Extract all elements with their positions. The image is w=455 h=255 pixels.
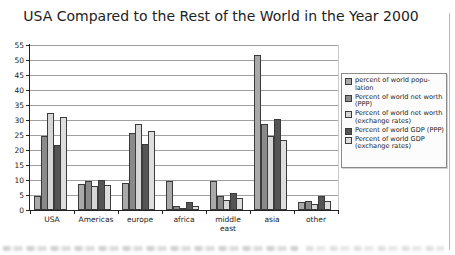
bar xyxy=(60,117,67,210)
y-axis-tick xyxy=(26,135,30,136)
gridline xyxy=(30,195,338,196)
gridline xyxy=(30,90,338,91)
legend-item: Percent of world GDP (PPP) xyxy=(345,127,444,135)
x-axis-label: Americas xyxy=(74,216,118,225)
y-axis-tick xyxy=(26,75,30,76)
legend-label: Percent of world net worth (exchange rat… xyxy=(355,110,444,126)
y-axis-label: 45 xyxy=(2,71,24,80)
legend-swatch-icon xyxy=(345,78,352,85)
y-axis-line xyxy=(29,44,30,211)
y-axis-tick xyxy=(26,180,30,181)
chart-title: USA Compared to the Rest of the World in… xyxy=(0,8,442,24)
y-axis-label: 55 xyxy=(2,41,24,50)
page-edge-line xyxy=(449,13,450,250)
x-axis-line xyxy=(29,210,339,211)
gridline xyxy=(30,180,338,181)
y-axis-label: 0 xyxy=(2,206,24,215)
legend-label: percent of world popu-lation xyxy=(355,77,444,93)
scan-artifact xyxy=(3,246,298,251)
bar xyxy=(236,198,243,210)
y-axis-label: 20 xyxy=(2,146,24,155)
x-axis-tick xyxy=(206,211,207,214)
gridline xyxy=(30,165,338,166)
y-axis-label: 25 xyxy=(2,131,24,140)
legend: percent of world popu-lationPercent of w… xyxy=(341,73,447,168)
legend-label: Percent of world GDP (PPP) xyxy=(355,127,444,135)
y-axis-label: 15 xyxy=(2,161,24,170)
y-axis-label: 5 xyxy=(2,191,24,200)
y-axis-label: 40 xyxy=(2,86,24,95)
gridline xyxy=(30,45,338,46)
y-axis-label: 50 xyxy=(2,56,24,65)
y-axis-tick xyxy=(26,90,30,91)
scan-artifact xyxy=(306,246,444,251)
x-axis-label: middle east xyxy=(206,216,250,233)
x-axis-tick xyxy=(294,211,295,214)
legend-swatch-icon xyxy=(345,137,352,144)
x-axis-tick xyxy=(250,211,251,214)
legend-item: Percent of world net worth (PPP) xyxy=(345,94,444,110)
legend-swatch-icon xyxy=(345,95,352,102)
x-axis-tick xyxy=(338,211,339,214)
x-axis-label: africa xyxy=(162,216,206,225)
x-axis-label: USA xyxy=(30,216,74,225)
x-axis-tick xyxy=(118,211,119,214)
y-axis-label: 30 xyxy=(2,116,24,125)
y-axis-tick xyxy=(26,60,30,61)
y-axis-tick xyxy=(26,150,30,151)
gridline xyxy=(30,60,338,61)
y-axis-tick xyxy=(26,195,30,196)
x-axis-label: other xyxy=(294,216,338,225)
bar xyxy=(324,201,331,210)
plot-area xyxy=(30,45,339,210)
gridline xyxy=(30,120,338,121)
legend-item: Percent of world GDP (exchange rates) xyxy=(345,136,444,152)
gridline xyxy=(30,150,338,151)
bar xyxy=(148,131,155,210)
gridline xyxy=(30,105,338,106)
legend-swatch-icon xyxy=(345,128,352,135)
gridline xyxy=(30,135,338,136)
bar xyxy=(280,140,287,210)
y-axis-tick xyxy=(26,45,30,46)
x-axis-label: europe xyxy=(118,216,162,225)
legend-label: Percent of world net worth (PPP) xyxy=(355,94,444,110)
gridline xyxy=(30,75,338,76)
y-axis-tick xyxy=(26,120,30,121)
y-axis-tick xyxy=(26,105,30,106)
y-axis-label: 35 xyxy=(2,101,24,110)
x-axis-label: asia xyxy=(250,216,294,225)
legend-item: percent of world popu-lation xyxy=(345,77,444,93)
y-axis-label: 10 xyxy=(2,176,24,185)
legend-label: Percent of world GDP (exchange rates) xyxy=(355,136,444,152)
x-axis-tick xyxy=(162,211,163,214)
legend-swatch-icon xyxy=(345,111,352,118)
x-axis-tick xyxy=(74,211,75,214)
x-axis-tick xyxy=(30,211,31,214)
legend-item: Percent of world net worth (exchange rat… xyxy=(345,110,444,126)
bar xyxy=(104,185,111,210)
y-axis-tick xyxy=(26,165,30,166)
